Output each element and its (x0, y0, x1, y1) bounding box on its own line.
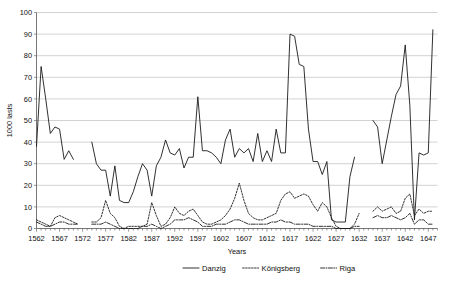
x-tick-label-1647: 1647 (420, 234, 436, 243)
y-tick-label-10: 10 (24, 203, 32, 212)
x-tick-label-1582: 1582 (120, 234, 136, 243)
y-tick-label-80: 80 (24, 51, 32, 60)
legend-label: Danzig (202, 264, 226, 273)
x-tick-label-1627: 1627 (328, 234, 344, 243)
y-tick-label-20: 20 (24, 181, 32, 190)
x-tick-label-1637: 1637 (374, 234, 390, 243)
x-tick-label-1572: 1572 (74, 234, 90, 243)
series-line-knigsberg (37, 183, 433, 228)
series-line-riga (37, 213, 433, 228)
y-tick-label-90: 90 (24, 30, 32, 39)
line-chart: 0102030405060708090100 15621567157215771… (0, 0, 451, 287)
y-tick-label-70: 70 (24, 73, 32, 82)
chart-container: 0102030405060708090100 15621567157215771… (0, 0, 451, 287)
x-tick-label-1612: 1612 (259, 234, 275, 243)
x-tick-label-1587: 1587 (144, 234, 160, 243)
y-tick-label-40: 40 (24, 138, 32, 147)
x-tick-label-1642: 1642 (397, 234, 413, 243)
x-tick-label-1607: 1607 (236, 234, 252, 243)
x-tick-label-1562: 1562 (28, 234, 44, 243)
x-axis-ticks (37, 229, 438, 232)
y-axis-tick-labels: 0102030405060708090100 (20, 8, 32, 233)
x-tick-label-1577: 1577 (97, 234, 113, 243)
legend-item-knigsberg[interactable]: Königsberg (243, 264, 300, 273)
x-tick-label-1597: 1597 (190, 234, 206, 243)
legend-label: Königsberg (262, 264, 300, 273)
gridlines (37, 13, 438, 207)
series-line-danzig (37, 30, 433, 222)
chart-legend: DanzigKönigsbergRiga (183, 264, 356, 273)
y-tick-label-0: 0 (28, 224, 32, 233)
y-axis-title: 1000 lasts (5, 103, 14, 137)
legend-item-danzig[interactable]: Danzig (183, 264, 226, 273)
y-tick-label-100: 100 (20, 8, 32, 17)
x-tick-label-1592: 1592 (167, 234, 183, 243)
legend-label: Riga (340, 264, 356, 273)
x-tick-label-1602: 1602 (213, 234, 229, 243)
x-tick-label-1617: 1617 (282, 234, 298, 243)
y-tick-label-50: 50 (24, 116, 32, 125)
x-tick-label-1622: 1622 (305, 234, 321, 243)
x-tick-label-1567: 1567 (51, 234, 67, 243)
y-tick-label-60: 60 (24, 95, 32, 104)
x-tick-label-1632: 1632 (351, 234, 367, 243)
axis-titles: 1000 lastsYears (5, 103, 247, 255)
legend-item-riga[interactable]: Riga (321, 264, 356, 273)
x-axis-title: Years (228, 247, 247, 256)
data-series (37, 30, 433, 229)
x-axis-tick-labels: 1562156715721577158215871592159716021607… (28, 234, 436, 243)
y-tick-label-30: 30 (24, 159, 32, 168)
